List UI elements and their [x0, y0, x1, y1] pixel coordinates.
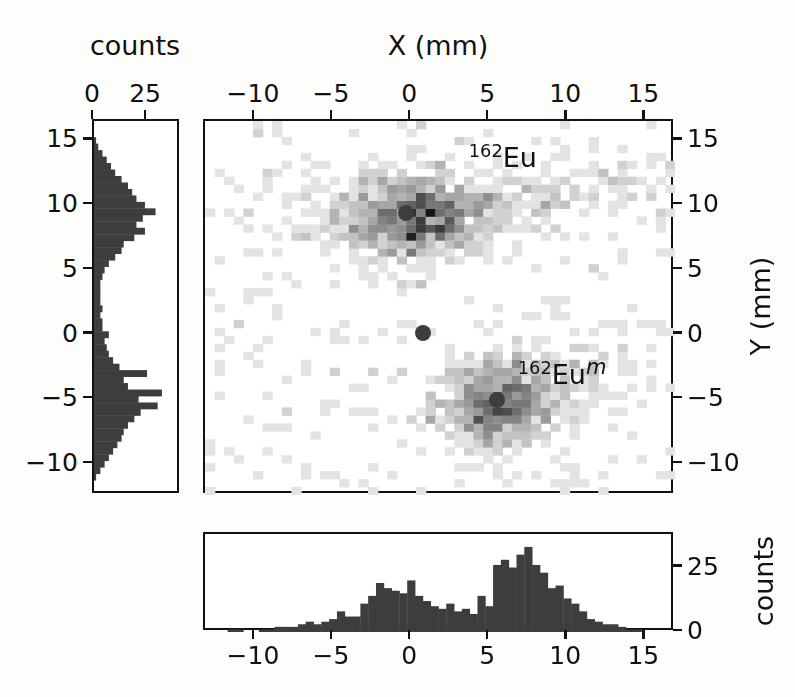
axis-tick [564, 630, 567, 639]
left-histogram-canvas [94, 121, 181, 495]
bottom-counts-ticklabel: 0 [687, 618, 703, 643]
axis-tick [673, 396, 682, 399]
axis-tick [486, 110, 489, 119]
centroid-eu162 [398, 205, 414, 221]
hist2d-canvas [205, 121, 675, 495]
main-x-ticklabel: 10 [549, 81, 581, 106]
axis-tick [330, 110, 333, 119]
left-y-ticklabel: 15 [46, 126, 78, 151]
bottom-x-ticklabel: 10 [549, 643, 581, 668]
main-y-axis-title: Y (mm) [745, 257, 776, 356]
axis-tick [642, 110, 645, 119]
axis-tick [673, 202, 682, 205]
bottom-marginal-histogram-panel [203, 532, 673, 630]
left-y-ticklabel: 10 [46, 191, 78, 216]
axis-tick [144, 110, 147, 119]
axis-tick [408, 630, 411, 639]
eu162-ground-state-label: 162Eu [469, 141, 537, 172]
bottom-x-ticklabel: −5 [313, 643, 350, 668]
axis-tick [486, 630, 489, 639]
main-x-ticklabel: 15 [627, 81, 659, 106]
axis-tick [408, 110, 411, 119]
eu162-isomer-label: 162Eum [518, 358, 607, 389]
axis-tick [83, 461, 92, 464]
left-y-ticklabel: 0 [62, 320, 78, 345]
axis-tick [673, 629, 682, 632]
main-y-ticklabel: 0 [687, 320, 703, 345]
axis-tick [252, 630, 255, 639]
centroid-origin [415, 325, 431, 341]
left-panel-counts-title: counts [90, 30, 180, 61]
left-y-ticklabel: −10 [25, 449, 78, 474]
main-y-ticklabel: −10 [687, 449, 740, 474]
main-y-ticklabel: −5 [687, 385, 724, 410]
centroid-eu162m [489, 392, 505, 408]
left-marginal-histogram-panel [92, 119, 179, 493]
bottom-counts-ticklabel: 25 [687, 553, 719, 578]
axis-tick [642, 630, 645, 639]
bottom-panel-counts-title: counts [748, 536, 779, 626]
main-y-ticklabel: 15 [687, 126, 719, 151]
axis-tick [673, 137, 682, 140]
axis-tick [673, 267, 682, 270]
bottom-x-ticklabel: 5 [479, 643, 495, 668]
left-y-ticklabel: −5 [41, 385, 78, 410]
axis-tick [330, 630, 333, 639]
left-counts-ticklabel: 0 [84, 81, 100, 106]
bottom-histogram-canvas [205, 534, 675, 632]
main-y-ticklabel: 5 [687, 255, 703, 280]
left-y-ticklabel: 5 [62, 255, 78, 280]
axis-tick [252, 110, 255, 119]
figure-root: 025151050−5−10 −10−5051015151050−5−10 −1… [0, 0, 795, 697]
main-x-ticklabel: 0 [401, 81, 417, 106]
bottom-x-ticklabel: 15 [627, 643, 659, 668]
axis-tick [83, 137, 92, 140]
main-x-ticklabel: −5 [313, 81, 350, 106]
axis-tick [83, 202, 92, 205]
axis-tick [673, 331, 682, 334]
main-x-ticklabel: 5 [479, 81, 495, 106]
bottom-x-ticklabel: 0 [401, 643, 417, 668]
main-y-ticklabel: 10 [687, 191, 719, 216]
axis-tick [673, 564, 682, 567]
bottom-x-ticklabel: −10 [227, 643, 280, 668]
axis-tick [673, 461, 682, 464]
axis-tick [83, 396, 92, 399]
main-x-axis-title: X (mm) [388, 30, 489, 61]
main-x-ticklabel: −10 [227, 81, 280, 106]
axis-tick [564, 110, 567, 119]
main-2d-histogram-panel [203, 119, 673, 493]
axis-tick [83, 331, 92, 334]
axis-tick [83, 267, 92, 270]
left-counts-ticklabel: 25 [129, 81, 161, 106]
axis-tick [91, 110, 94, 119]
